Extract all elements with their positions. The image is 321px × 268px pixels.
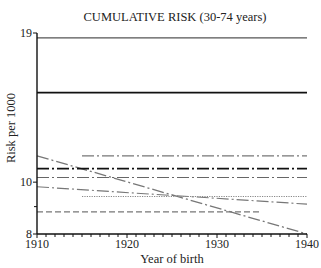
x-tick-label: 1940 (295, 237, 319, 251)
chart-title: CUMULATIVE RISK (30-74 years) (84, 10, 267, 24)
y-axis-label: Risk per 1000 (4, 93, 18, 163)
y-tick-label: 10 (20, 175, 32, 189)
series-layer (37, 38, 307, 234)
x-axis-label: Year of birth (140, 252, 204, 266)
y-tick-label: 8 (26, 227, 32, 241)
x-tick-label: 1930 (205, 237, 229, 251)
y-tick-label: 19 (20, 26, 32, 40)
data-line-7 (37, 187, 307, 204)
cumulative-risk-chart: CUMULATIVE RISK (30-74 years) 1910192019… (0, 0, 321, 268)
x-tick-label: 1920 (115, 237, 139, 251)
axes: 191019201930194081019 (20, 26, 319, 251)
